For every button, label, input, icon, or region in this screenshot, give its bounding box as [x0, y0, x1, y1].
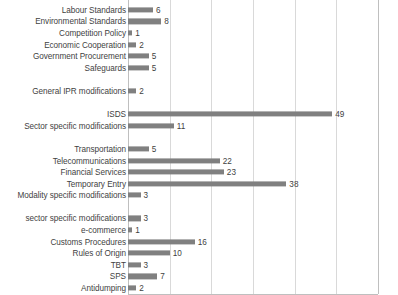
bar-row: 6	[128, 4, 378, 16]
bar-row: 8	[128, 16, 378, 28]
bar-spacer	[128, 132, 378, 144]
category-label-row: ISDS	[0, 108, 126, 120]
bar-value-label: 5	[149, 63, 157, 72]
bar-spacer	[128, 74, 378, 86]
bar	[128, 88, 136, 93]
bar-row: 5	[128, 62, 378, 74]
bar	[128, 262, 141, 267]
bar-track: 22	[128, 155, 378, 167]
bar-value-label: 5	[149, 52, 157, 61]
category-spacer	[0, 201, 126, 213]
bar-track: 3	[128, 190, 378, 202]
plot-area: 6812552491152223383311610372	[128, 0, 378, 294]
bar-track: 10	[128, 247, 378, 259]
bar-value-label: 5	[149, 144, 157, 153]
category-label-row: Environmental Standards	[0, 16, 126, 28]
category-label: Antidumping	[81, 284, 126, 293]
bar-track: 8	[128, 16, 378, 28]
category-label: Sector specific modifications	[24, 121, 126, 130]
category-label: Environmental Standards	[35, 17, 126, 26]
bar	[128, 239, 195, 244]
category-label-row: Economic Cooperation	[0, 39, 126, 51]
bar-value-label: 2	[136, 40, 144, 49]
bar-value-label: 2	[136, 86, 144, 95]
bar-track: 5	[128, 62, 378, 74]
category-label: Competition Policy	[59, 28, 126, 37]
bar-row: 2	[128, 39, 378, 51]
bar-track: 11	[128, 120, 378, 132]
bar-spacer	[128, 201, 378, 213]
bar-row: 11	[128, 120, 378, 132]
category-label: Transportation	[74, 144, 126, 153]
bar	[128, 274, 157, 279]
bar-value-label: 7	[157, 272, 165, 281]
category-label: Economic Cooperation	[44, 40, 126, 49]
bar-value-label: 3	[141, 260, 149, 269]
category-label: Telecommunications	[53, 156, 126, 165]
bar-row: 2	[128, 282, 378, 294]
category-label: e-commerce	[81, 226, 126, 235]
category-label-row: Rules of Origin	[0, 247, 126, 259]
category-label-row: Safeguards	[0, 62, 126, 74]
bar-row: 2	[128, 85, 378, 97]
bar	[128, 112, 332, 117]
category-label-row: Financial Services	[0, 166, 126, 178]
bar-track: 3	[128, 213, 378, 225]
bar-value-label: 38	[286, 179, 298, 188]
bar-row: 7	[128, 271, 378, 283]
bar-track: 5	[128, 143, 378, 155]
bar-value-label: 10	[170, 249, 182, 258]
bar-track: 1	[128, 224, 378, 236]
category-label: TBT	[111, 260, 126, 269]
bar-value-label: 6	[153, 5, 161, 14]
category-label-row: Government Procurement	[0, 50, 126, 62]
bar-row: 5	[128, 50, 378, 62]
bar-track: 49	[128, 108, 378, 120]
category-label: Modality specific modifications	[17, 191, 126, 200]
plot-right-border	[378, 0, 379, 294]
category-label: Safeguards	[85, 63, 126, 72]
bar-spacer	[128, 97, 378, 109]
category-spacer	[0, 97, 126, 109]
bar-track: 16	[128, 236, 378, 248]
bar-track: 7	[128, 271, 378, 283]
bar-value-label: 3	[141, 191, 149, 200]
bar-value-label: 1	[132, 226, 140, 235]
category-label-row: Customs Procedures	[0, 236, 126, 248]
category-label-row: TBT	[0, 259, 126, 271]
category-label-row: Competition Policy	[0, 27, 126, 39]
category-label-row: Telecommunications	[0, 155, 126, 167]
bar	[128, 251, 170, 256]
bar-value-label: 16	[195, 237, 207, 246]
category-label: SPS	[110, 272, 126, 281]
category-label: Government Procurement	[33, 52, 126, 61]
bar-value-label: 23	[224, 168, 236, 177]
bar	[128, 7, 153, 12]
bar	[128, 19, 161, 24]
category-label: sector specific modifications	[26, 214, 126, 223]
category-label-row: e-commerce	[0, 224, 126, 236]
category-label-row: Antidumping	[0, 282, 126, 294]
category-label: Rules of Origin	[73, 249, 126, 258]
category-spacer	[0, 74, 126, 86]
bar-track: 1	[128, 27, 378, 39]
bar-track: 23	[128, 166, 378, 178]
bar-track: 3	[128, 259, 378, 271]
category-label-row: Labour Standards	[0, 4, 126, 16]
bar	[128, 42, 136, 47]
bar-row: 1	[128, 224, 378, 236]
bar-value-label: 8	[161, 17, 169, 26]
bar	[128, 285, 136, 290]
bar-value-label: 49	[332, 110, 344, 119]
category-label: General IPR modifications	[32, 86, 126, 95]
category-label: Temporary Entry	[67, 179, 126, 188]
bar	[128, 146, 149, 151]
bar-row: 10	[128, 247, 378, 259]
bar-row: 23	[128, 166, 378, 178]
bar-row: 16	[128, 236, 378, 248]
bar-row: 3	[128, 259, 378, 271]
bar-row: 3	[128, 190, 378, 202]
category-axis-labels: Labour StandardsEnvironmental StandardsC…	[0, 0, 126, 294]
bar-row: 3	[128, 213, 378, 225]
category-label-row: SPS	[0, 271, 126, 283]
